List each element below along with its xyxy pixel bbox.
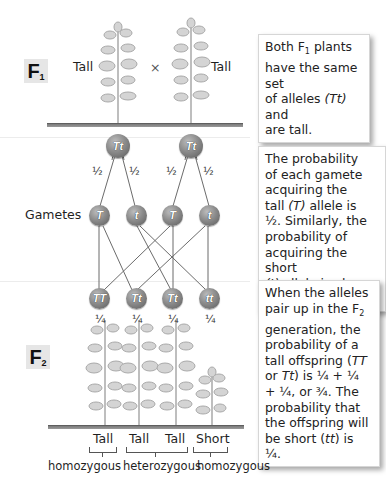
plant-tall [120, 320, 158, 425]
f2-badge: F2 [26, 345, 50, 369]
group-label: heterozygous [123, 459, 201, 473]
plant-tall [172, 18, 210, 123]
group-bracket [126, 447, 188, 453]
group-label: homozygous [197, 459, 270, 473]
f1-left-phenotype: Tall [73, 59, 93, 74]
gamete-probability: ½ [92, 165, 103, 178]
offspring-probability: ¼ [168, 313, 179, 326]
plant-tall [86, 320, 124, 425]
f1-badge: F1 [24, 59, 48, 83]
f1-ground [47, 123, 243, 127]
gamete-allele-ball: t [126, 205, 147, 226]
plant-tall [99, 22, 137, 123]
parent-genotype-ball: Tt [106, 134, 130, 158]
phenotype-label: Tall [165, 431, 185, 446]
phenotype-label: Tall [129, 431, 149, 446]
gametes-label: Gametes [25, 207, 81, 222]
offspring-genotype-ball: TT [89, 288, 110, 309]
gamete-probability: ½ [203, 165, 214, 178]
badge-letter: F [27, 60, 39, 82]
f2-note: When the alleles pair up in the F2 gener… [258, 280, 380, 467]
badge-letter: F [29, 346, 41, 368]
offspring-probability: ¼ [205, 313, 216, 326]
group-bracket-tick [155, 452, 156, 457]
phenotype-label: Tall [93, 431, 113, 446]
offspring-genotype-ball: Tt [126, 288, 147, 309]
gamete-probability: ½ [129, 165, 140, 178]
f1-right-phenotype: Tall [211, 59, 231, 74]
gamete-allele-ball: T [89, 205, 110, 226]
parent-genotype-ball: Tt [179, 134, 203, 158]
phenotype-label: Short [196, 431, 230, 446]
group-bracket-tick [102, 452, 103, 457]
gamete-allele-ball: T [162, 205, 183, 226]
group-bracket-tick [210, 452, 211, 457]
offspring-genotype-ball: Tt [162, 288, 183, 309]
gamete-probability: ½ [166, 165, 177, 178]
badge-subscript: 1 [40, 72, 45, 82]
offspring-probability: ¼ [132, 313, 143, 326]
group-label: homozygous [48, 459, 121, 473]
badge-subscript: 2 [42, 358, 47, 368]
plant-short [196, 367, 228, 425]
cross-symbol: × [150, 60, 160, 75]
plant-tall [157, 320, 195, 425]
offspring-probability: ¼ [95, 313, 106, 326]
group-bracket [89, 447, 117, 453]
gamete-allele-ball: t [199, 205, 220, 226]
f2-ground [48, 425, 244, 429]
f1-note: Both F1 plants have the same set of alle… [258, 34, 370, 143]
offspring-genotype-ball: tt [199, 288, 220, 309]
